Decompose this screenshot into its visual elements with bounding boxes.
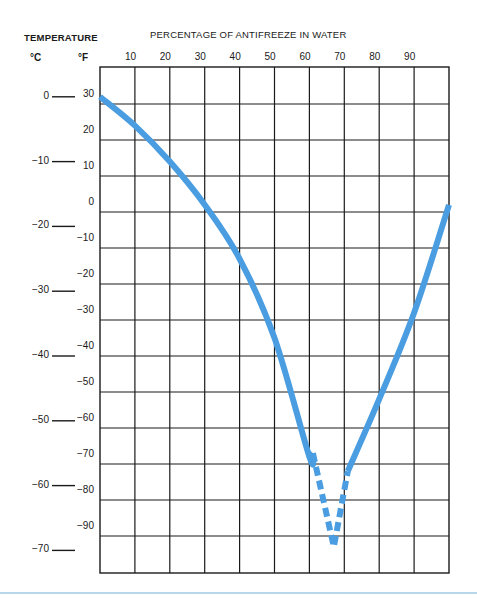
freezing-point-curve xyxy=(348,205,449,471)
bottom-divider xyxy=(0,592,477,594)
freezing-point-curve xyxy=(100,97,313,465)
freezing-point-chart xyxy=(0,0,477,599)
